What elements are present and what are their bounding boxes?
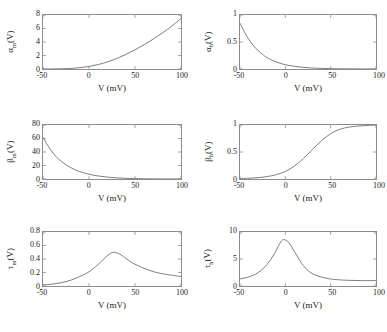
- x-tick-label: 100: [176, 289, 188, 297]
- y-axis-ticks-tau-m: 00.20.40.60.8: [14, 231, 40, 287]
- y-tick-label: 0.5: [213, 38, 237, 46]
- y-tick-label: 8: [16, 10, 40, 18]
- x-axis-ticks-tau-h: -50050100: [239, 289, 377, 300]
- x-tick-label: -50: [37, 182, 48, 190]
- x-tick-label: 100: [176, 182, 188, 190]
- panel-tau-h: τh(V) 0510 -50050100 V (mV): [193, 217, 387, 332]
- panel-beta-m: βm(V) 020406080 -50050100 V (mV): [0, 110, 193, 217]
- x-tick-label: 50: [328, 289, 336, 297]
- x-axis-ticks-alpha-h: -50050100: [239, 72, 377, 83]
- x-tick-label: 100: [176, 72, 188, 80]
- curve-beta-h: [240, 125, 376, 179]
- y-tick-label: 60: [16, 134, 40, 142]
- figure-panel-grid: αm(V) 02468 -50050100 V (mV) αh(V) 00.51…: [0, 0, 387, 332]
- y-tick-label: 10: [213, 227, 237, 235]
- curve-alpha-h: [240, 15, 376, 69]
- x-axis-label-beta-m: V (mV): [42, 193, 182, 203]
- x-tick-label: -50: [234, 289, 245, 297]
- y-tick-label: 0.5: [213, 148, 237, 156]
- x-tick-label: 50: [131, 289, 139, 297]
- curve-alpha-m: [43, 15, 181, 69]
- y-axis-ticks-beta-h: 00.51: [211, 124, 237, 180]
- x-tick-label: 100: [373, 182, 385, 190]
- y-tick-label: 1: [213, 120, 237, 128]
- plot-area-tau-h: [239, 231, 377, 287]
- panel-beta-h: βh(V) 00.51 -50050100 V (mV): [193, 110, 387, 217]
- y-axis-ticks-beta-m: 020406080: [14, 124, 40, 180]
- x-axis-ticks-beta-h: -50050100: [239, 182, 377, 193]
- curve-tau-m: [43, 232, 181, 286]
- x-tick-label: 50: [328, 72, 336, 80]
- x-tick-label: -50: [234, 182, 245, 190]
- y-tick-label: 20: [16, 162, 40, 170]
- y-axis-ticks-tau-h: 0510: [211, 231, 237, 287]
- x-axis-ticks-tau-m: -50050100: [42, 289, 182, 300]
- x-tick-label: 0: [87, 182, 91, 190]
- y-tick-label: 0.8: [16, 227, 40, 235]
- x-tick-label: -50: [37, 72, 48, 80]
- x-axis-label-tau-m: V (mV): [42, 300, 182, 310]
- plot-area-beta-h: [239, 124, 377, 180]
- x-axis-label-beta-h: V (mV): [239, 193, 377, 203]
- curve-tau-h: [240, 232, 376, 286]
- plot-area-beta-m: [42, 124, 182, 180]
- x-axis-ticks-beta-m: -50050100: [42, 182, 182, 193]
- x-axis-label-tau-h: V (mV): [239, 300, 377, 310]
- x-tick-label: 50: [131, 72, 139, 80]
- y-axis-ticks-alpha-m: 02468: [14, 14, 40, 70]
- panel-tau-m: τm(V) 00.20.40.60.8 -50050100 V (mV): [0, 217, 193, 332]
- x-tick-label: -50: [234, 72, 245, 80]
- x-tick-label: 0: [284, 289, 288, 297]
- x-tick-label: -50: [37, 289, 48, 297]
- curve-beta-m: [43, 125, 181, 179]
- y-tick-label: 0.2: [16, 269, 40, 277]
- plot-area-alpha-h: [239, 14, 377, 70]
- y-axis-ticks-alpha-h: 00.51: [211, 14, 237, 70]
- x-tick-label: 0: [87, 72, 91, 80]
- y-tick-label: 6: [16, 24, 40, 32]
- plot-area-tau-m: [42, 231, 182, 287]
- y-tick-label: 2: [16, 52, 40, 60]
- y-tick-label: 0.6: [16, 241, 40, 249]
- x-axis-label-alpha-m: V (mV): [42, 83, 182, 93]
- x-tick-label: 100: [373, 289, 385, 297]
- panel-alpha-h: αh(V) 00.51 -50050100 V (mV): [193, 0, 387, 110]
- panel-alpha-m: αm(V) 02468 -50050100 V (mV): [0, 0, 193, 110]
- x-tick-label: 50: [131, 182, 139, 190]
- x-tick-label: 50: [328, 182, 336, 190]
- x-tick-label: 0: [284, 182, 288, 190]
- x-axis-label-alpha-h: V (mV): [239, 83, 377, 93]
- y-tick-label: 5: [213, 255, 237, 263]
- y-tick-label: 0.4: [16, 255, 40, 263]
- y-tick-label: 1: [213, 10, 237, 18]
- x-tick-label: 100: [373, 72, 385, 80]
- plot-area-alpha-m: [42, 14, 182, 70]
- y-tick-label: 4: [16, 38, 40, 46]
- y-tick-label: 40: [16, 148, 40, 156]
- y-tick-label: 80: [16, 120, 40, 128]
- x-tick-label: 0: [87, 289, 91, 297]
- x-tick-label: 0: [284, 72, 288, 80]
- x-axis-ticks-alpha-m: -50050100: [42, 72, 182, 83]
